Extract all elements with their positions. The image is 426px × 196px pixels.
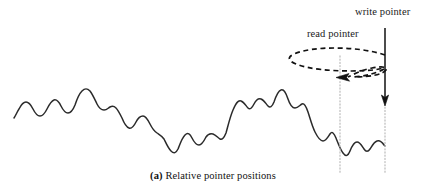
caption-text: Relative pointer positions bbox=[165, 170, 276, 181]
figure-canvas bbox=[0, 0, 426, 196]
pointer-positions-figure: write pointer read pointer (a) Relative … bbox=[0, 0, 426, 196]
lag-loop-arrowhead bbox=[336, 74, 350, 82]
caption-tag: (a) bbox=[150, 170, 163, 181]
read-pointer-label: read pointer bbox=[307, 28, 359, 39]
figure-caption: (a) Relative pointer positions bbox=[0, 170, 426, 181]
waveform-trace bbox=[14, 89, 385, 156]
write-pointer-label: write pointer bbox=[355, 6, 410, 17]
